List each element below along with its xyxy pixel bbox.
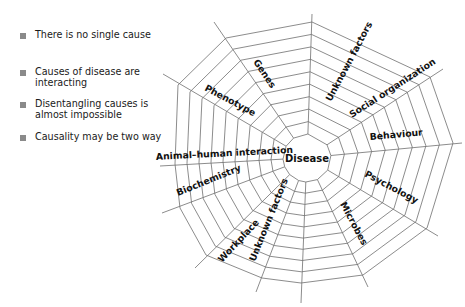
web-spoke <box>308 14 312 134</box>
spoke-label-genes: Genes <box>251 57 278 90</box>
spoke-label-phenotype: Phenotype <box>203 82 258 118</box>
spoke-label-social-organization: Social organization <box>347 56 437 120</box>
spoke-label-biochemistry: Biochemistry <box>175 162 243 198</box>
causal-web-diagram: Disease Unknown factors Social organizat… <box>0 0 465 307</box>
web-spoke <box>331 143 462 156</box>
spoke-label-animal-human-interaction: Animal–human interaction <box>156 144 294 162</box>
web-spoke <box>301 182 306 303</box>
spoke-label-microbes: Microbes <box>338 200 370 247</box>
